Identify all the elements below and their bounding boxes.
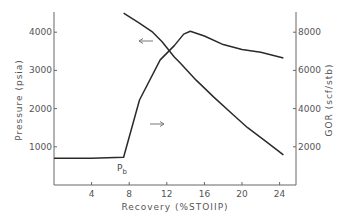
left-arrow-annotation	[139, 39, 153, 44]
y2-tick-label: 8000	[298, 27, 321, 37]
x-axis-title: Recovery (%STOIIP)	[121, 202, 228, 212]
left-y-ticks: 1000200030004000	[29, 27, 57, 152]
y-tick-label: 2000	[29, 104, 52, 114]
x-tick-label: 12	[161, 189, 172, 199]
gor-curve	[54, 31, 283, 158]
y2-axis-title: GOR (scf/stb)	[324, 64, 334, 137]
x-tick-label: 20	[236, 189, 248, 199]
bubble-point-label: Pb	[117, 163, 127, 176]
y-tick-label: 1000	[29, 142, 52, 152]
recovery-pressure-gor-chart: 4812162024 1000200030004000 200040006000…	[0, 0, 344, 220]
y2-tick-label: 4000	[298, 104, 321, 114]
y2-tick-label: 6000	[298, 65, 321, 75]
y-tick-label: 4000	[29, 27, 52, 37]
x-tick-label: 16	[199, 189, 211, 199]
right-y-ticks: 2000400060008000	[293, 27, 321, 152]
y2-tick-label: 2000	[298, 142, 321, 152]
x-tick-label: 24	[274, 189, 286, 199]
y-axis-title: Pressure (psia)	[14, 59, 24, 141]
right-arrow-annotation	[150, 122, 164, 127]
y-tick-label: 3000	[29, 65, 52, 75]
x-tick-label: 8	[126, 189, 132, 199]
x-tick-label: 4	[89, 189, 95, 199]
